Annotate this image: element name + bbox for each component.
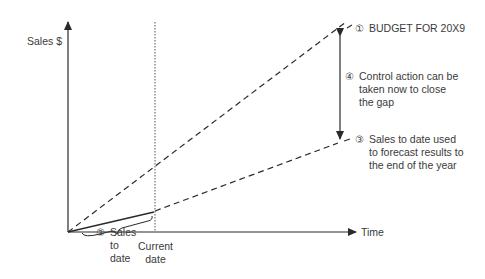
budget-line [68,22,346,232]
forecast-line [155,143,338,211]
forecast-annotation: ③Sales to date used to forecast results … [355,133,464,172]
number-1-icon: ① [355,22,369,35]
current-date-line1: Current [138,240,173,253]
sales-to-date-line1: Sales [110,226,136,238]
current-date-line2: date [138,253,173,266]
number-3-icon: ③ [355,133,369,146]
number-2-icon: ② [96,226,110,239]
y-axis-label: Sales $ [27,35,62,48]
budget-annotation: ①BUDGET FOR 20X9 [355,22,465,35]
budget-leader [347,25,352,28]
control-line2: taken now to close [345,83,458,96]
forecast-line1: Sales to date used [369,133,456,145]
x-axis-label: Time [361,226,384,239]
control-line3: the gap [345,96,458,109]
forecast-leader [344,139,350,141]
control-annotation: ④Control action can be taken now to clos… [345,70,458,109]
sales-to-date-line3: date [96,252,136,265]
current-date-label: Current date [138,240,173,266]
forecast-line2: to forecast results to [355,146,464,159]
sales-to-date-annotation: ②Sales to date [96,226,136,265]
number-4-icon: ④ [345,70,359,83]
control-line1: Control action can be [359,70,458,82]
sales-to-date-line2: to [96,239,136,252]
forecast-line3: the end of the year [355,159,464,172]
budget-label: BUDGET FOR 20X9 [369,22,465,34]
